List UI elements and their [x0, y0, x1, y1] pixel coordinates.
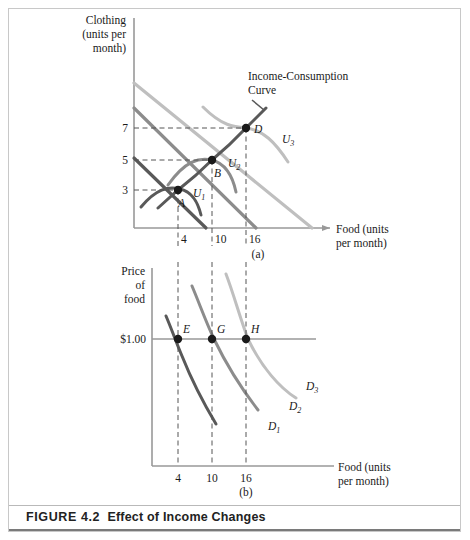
panel-a-y-axis-title-line1: Clothing — [86, 14, 127, 27]
panel-a-x-tick-16: 16 — [249, 233, 261, 245]
curve-label-d1: D1 — [267, 420, 280, 435]
panel-b-x-axis-title-line1: Food (units — [338, 461, 391, 474]
panel-a-x-tick-10: 10 — [215, 233, 227, 245]
income-consumption-annotation-line2: Curve — [248, 84, 276, 96]
income-consumption-annotation-leader — [252, 100, 264, 110]
point-b-marker — [208, 156, 216, 164]
panel-a-x-tick-4: 4 — [181, 233, 187, 245]
panel-a: Clothing (units per month) Food (units p… — [82, 14, 389, 261]
panel-b-y-axis-title-line1: Price — [121, 265, 145, 277]
income-consumption-annotation-line1: Income-Consumption — [248, 70, 349, 83]
panel-b-x-tick-10: 10 — [206, 472, 218, 484]
panel-b-x-tick-16: 16 — [240, 472, 252, 484]
panel-a-y-tick-3: 3 — [122, 184, 128, 196]
panel-b-x-tick-4: 4 — [175, 472, 181, 484]
curve-label-d3: D3 — [305, 380, 318, 395]
point-label-h: H — [250, 323, 260, 335]
panel-a-x-axis-title-line2: per month) — [336, 237, 387, 250]
panel-b-x-axis-title-line2: per month) — [338, 475, 389, 488]
point-g-marker — [208, 335, 216, 343]
figure-container: Clothing (units per month) Food (units p… — [0, 0, 470, 540]
panel-a-y-axis-title-line2: (units per — [82, 28, 126, 41]
panel-b-y-axis-title-line3: food — [124, 293, 145, 305]
point-e-marker — [174, 335, 182, 343]
point-label-b: B — [214, 167, 221, 179]
point-d-marker — [242, 124, 250, 132]
point-label-g: G — [217, 323, 226, 335]
figure-number: FIGURE 4.2 — [26, 510, 100, 524]
panel-a-y-axis-title-line3: month) — [93, 42, 126, 55]
point-h-marker — [242, 335, 250, 343]
curve-label-d2: D2 — [288, 400, 301, 415]
panel-a-y-tick-7: 7 — [122, 122, 128, 134]
point-a-marker — [174, 186, 182, 194]
panel-a-x-axis-title-line1: Food (units — [336, 223, 389, 236]
point-label-a: A — [177, 197, 186, 209]
panel-b-y-axis-title-line2: of — [135, 279, 145, 291]
point-label-e: E — [182, 323, 190, 335]
panel-b-y-tick-1-00: $1.00 — [120, 333, 146, 345]
demand-curve-d2 — [192, 286, 258, 410]
panel-a-y-tick-5: 5 — [122, 154, 128, 166]
panel-a-x-axis-arrow — [322, 225, 330, 231]
demand-curve-d1 — [166, 316, 216, 424]
curve-label-u3: U3 — [282, 133, 294, 148]
figure-caption: FIGURE 4.2 Effect of Income Changes — [26, 510, 266, 524]
curve-label-u2: U2 — [228, 157, 240, 172]
figure-title: Effect of Income Changes — [107, 510, 265, 524]
panel-a-id: (a) — [252, 248, 265, 261]
panel-b-id: (b) — [239, 486, 253, 499]
figure-plot-svg: Clothing (units per month) Food (units p… — [0, 0, 470, 540]
point-label-d: D — [253, 123, 263, 135]
panel-b: Price of food $1.00 4 10 16 Food (units … — [120, 262, 391, 499]
